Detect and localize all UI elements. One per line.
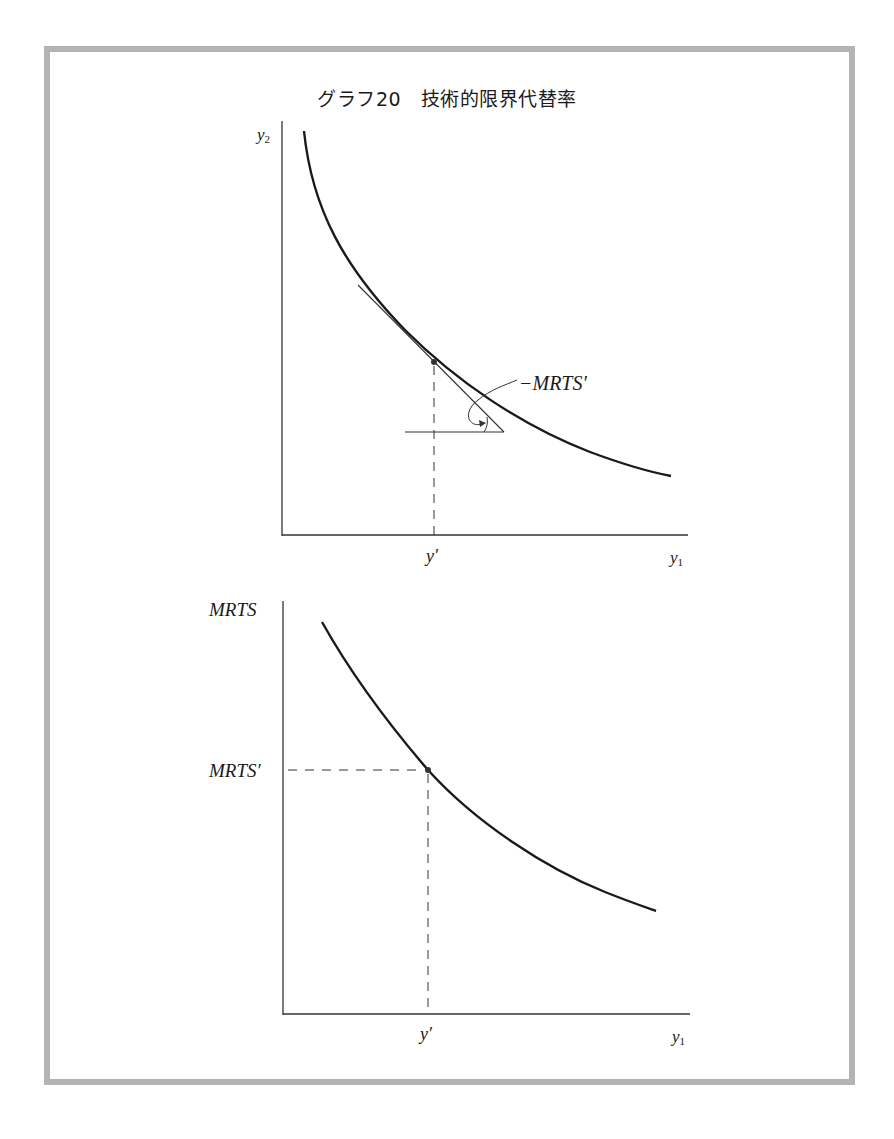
angle-arc [484,417,487,432]
tangency-point [431,359,437,365]
top-x-axis-label: y1 [668,548,683,568]
tangent-line [358,285,504,432]
bottom-chart: MRTS MRTS′ y1 y′ [208,599,690,1047]
top-x-marker-label: y′ [424,546,439,566]
mrts-point [425,767,431,773]
top-y-axis-label: y2 [255,125,270,145]
top-chart: y2 y1 y′ −MRTS′ [255,121,688,568]
mrts-slope-label: −MRTS′ [519,372,587,394]
bottom-y-marker-label: MRTS′ [208,760,262,781]
bottom-x-axis-label: y1 [670,1027,685,1047]
bottom-y-axis-label: MRTS [208,599,257,620]
figure-canvas: y2 y1 y′ −MRTS′ MRTS MRTS′ y1 y′ [0,0,894,1139]
mrts-curve [322,622,656,911]
arrow-head-icon [479,420,486,427]
bottom-x-marker-label: y′ [418,1024,433,1044]
